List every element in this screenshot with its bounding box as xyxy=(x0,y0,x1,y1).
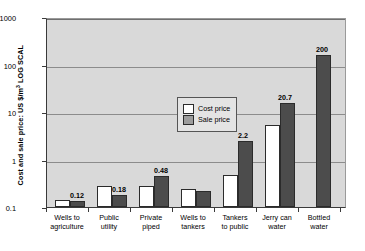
bar-cost-tankers-to-public[interactable] xyxy=(223,175,238,207)
bar-cost-jerry-can-water[interactable] xyxy=(265,125,280,207)
bar-cost-public-utility[interactable] xyxy=(97,186,112,207)
bar-cost-wells-to-agriculture[interactable] xyxy=(55,200,70,208)
y-axis-title-prefix: Cost and sale price: US $/m xyxy=(16,88,25,185)
y-axis-title: Cost and sale price: US $/m3 LOG SCAL xyxy=(15,25,25,205)
x-category-line-2: water xyxy=(291,223,347,232)
x-tick-0 xyxy=(46,208,47,212)
bar-sale-jerry-can-water[interactable] xyxy=(280,103,295,207)
bar-cost-wells-to-tankers[interactable] xyxy=(181,189,196,208)
data-label-public-utility: 0.18 xyxy=(112,186,126,193)
x-tick-6 xyxy=(298,208,299,212)
data-label-tankers-to-public: 2.2 xyxy=(238,132,248,139)
y-tick-label-100: 100 xyxy=(0,63,16,70)
data-label-wells-to-agriculture: 0.12 xyxy=(70,192,84,199)
bar-sale-tankers-to-public[interactable] xyxy=(238,141,253,207)
bar-sale-public-utility[interactable] xyxy=(112,195,127,207)
legend-swatch-cost-price xyxy=(183,104,194,114)
y-tick-label-10: 10 xyxy=(0,110,16,117)
x-tick-7 xyxy=(340,208,341,212)
y-tick-label-1: 1 xyxy=(0,158,16,165)
bar-group-wells-to-agriculture: 0.12 xyxy=(55,17,91,207)
bar-group-private-piped: 0.48 xyxy=(139,17,175,207)
y-tick-label-1000: 1000 xyxy=(0,15,16,22)
bar-sale-wells-to-agriculture[interactable] xyxy=(70,201,85,207)
legend-swatch-sale-price xyxy=(183,115,194,125)
x-tick-2 xyxy=(130,208,131,212)
y-axis-title-suffix: LOG SCAL xyxy=(16,45,25,85)
chart-figure: Cost and sale price: US $/m3 LOG SCAL 10… xyxy=(0,0,365,251)
data-label-private-piped: 0.48 xyxy=(154,167,168,174)
bar-sale-wells-to-tankers[interactable] xyxy=(196,191,211,207)
bar-sale-bottled-water[interactable] xyxy=(316,55,331,207)
x-tick-1 xyxy=(88,208,89,212)
bar-cost-private-piped[interactable] xyxy=(139,186,154,207)
data-label-jerry-can-water: 20.7 xyxy=(278,94,292,101)
y-tick-label-0.1: 0.1 xyxy=(0,205,16,212)
x-tick-3 xyxy=(172,208,173,212)
bar-group-bottled-water: 200 xyxy=(307,17,343,207)
x-tick-4 xyxy=(214,208,215,212)
bar-group-jerry-can-water: 20.7 xyxy=(265,17,301,207)
x-category-bottled-water: Bottled water xyxy=(291,214,347,231)
plot-area: 0.12 0.18 0.48 2.2 20.7 xyxy=(46,18,346,208)
data-label-bottled-water: 200 xyxy=(316,46,328,53)
bar-group-public-utility: 0.18 xyxy=(97,17,133,207)
legend-label-sale-price: Sale price xyxy=(198,116,230,123)
chart-legend: Cost price Sale price xyxy=(177,97,237,132)
legend-label-cost-price: Cost price xyxy=(198,105,230,112)
bar-sale-private-piped[interactable] xyxy=(154,176,169,207)
legend-item-cost-price: Cost price xyxy=(183,104,230,114)
x-tick-5 xyxy=(256,208,257,212)
y-axis-title-exponent: 3 xyxy=(15,85,21,88)
legend-item-sale-price: Sale price xyxy=(183,115,230,125)
